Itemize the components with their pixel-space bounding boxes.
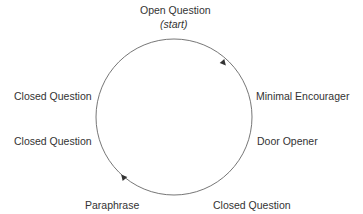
node-closed-question-left-lower: Closed Question	[14, 135, 92, 147]
cycle-circle	[96, 39, 252, 195]
node-door-opener: Door Opener	[257, 135, 318, 147]
node-start-note: (start)	[160, 18, 187, 30]
node-closed-question-left-upper: Closed Question	[14, 90, 92, 102]
arrow-upper-right-icon	[220, 59, 228, 67]
node-open-question: Open Question	[140, 4, 211, 16]
node-closed-question-bottom-right: Closed Question	[213, 199, 291, 211]
node-minimal-encourager: Minimal Encourager	[256, 90, 349, 102]
node-paraphrase: Paraphrase	[85, 199, 139, 211]
cycle-diagram	[0, 0, 363, 214]
